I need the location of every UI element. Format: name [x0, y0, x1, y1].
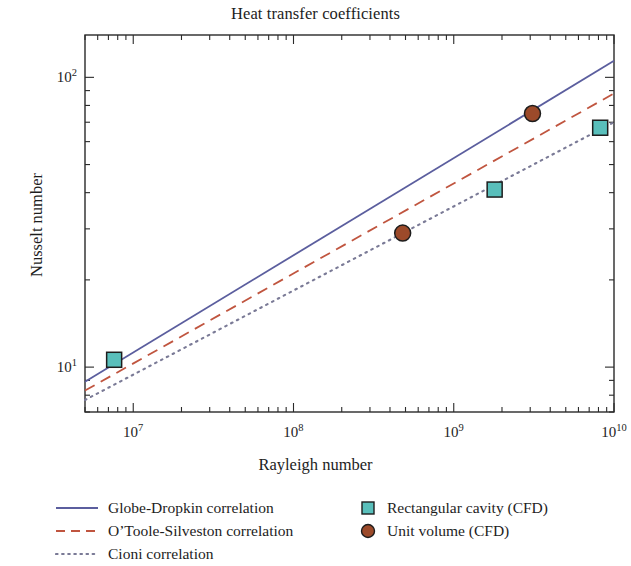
y-axis-label: Nusselt number: [27, 125, 47, 325]
legend-entry[interactable]: Rectangular cavity (CFD): [355, 499, 615, 517]
legend-sample: [55, 547, 99, 561]
series-line: [85, 122, 614, 400]
legend-label: O’Toole-Silveston correlation: [108, 522, 293, 540]
legend-sample: [355, 522, 381, 540]
legend-sample: [355, 499, 381, 517]
legend-line-sample-dashed: [55, 524, 99, 538]
legend-entry[interactable]: Globe-Dropkin correlation: [55, 499, 355, 517]
legend-sample: [55, 524, 99, 538]
legend-row: Globe-Dropkin correlationRectangular cav…: [55, 496, 631, 519]
data-point-marker: [593, 120, 608, 135]
legend-line-sample-solid: [55, 501, 99, 515]
y-tick-label: 102: [29, 69, 77, 86]
data-point-marker: [395, 225, 411, 241]
legend-square-marker: [359, 499, 377, 517]
legend-row: O’Toole-Silveston correlationUnit volume…: [55, 519, 631, 542]
legend-label: Cioni correlation: [108, 545, 213, 563]
chart-figure: Heat transfer coefficients Rayleigh numb…: [0, 0, 631, 566]
data-series: [85, 61, 614, 400]
axis-ticks: [85, 35, 614, 412]
y-tick-label: 101: [29, 359, 77, 376]
series-line: [85, 93, 614, 390]
legend-label: Unit volume (CFD): [387, 522, 509, 540]
legend-label: Rectangular cavity (CFD): [387, 499, 548, 517]
x-tick-label: 1010: [601, 424, 627, 441]
x-tick-label: 109: [444, 424, 464, 441]
plot-canvas: [0, 0, 631, 566]
chart-legend: Globe-Dropkin correlationRectangular cav…: [55, 496, 631, 565]
legend-entry[interactable]: Cioni correlation: [55, 545, 355, 563]
legend-entry[interactable]: Unit volume (CFD): [355, 522, 615, 540]
data-point-marker: [524, 106, 540, 122]
legend-sample: [55, 501, 99, 515]
legend-label: Globe-Dropkin correlation: [108, 499, 274, 517]
legend-row: Cioni correlation: [55, 542, 631, 565]
x-tick-label: 107: [123, 424, 143, 441]
plot-frame: [85, 35, 614, 412]
data-point-marker: [107, 352, 122, 367]
legend-entry[interactable]: O’Toole-Silveston correlation: [55, 522, 355, 540]
legend-circle-marker: [359, 522, 377, 540]
x-axis-label: Rayleigh number: [0, 455, 631, 475]
legend-line-sample-dotted: [55, 547, 99, 561]
data-point-marker: [487, 182, 502, 197]
x-tick-label: 108: [283, 424, 303, 441]
